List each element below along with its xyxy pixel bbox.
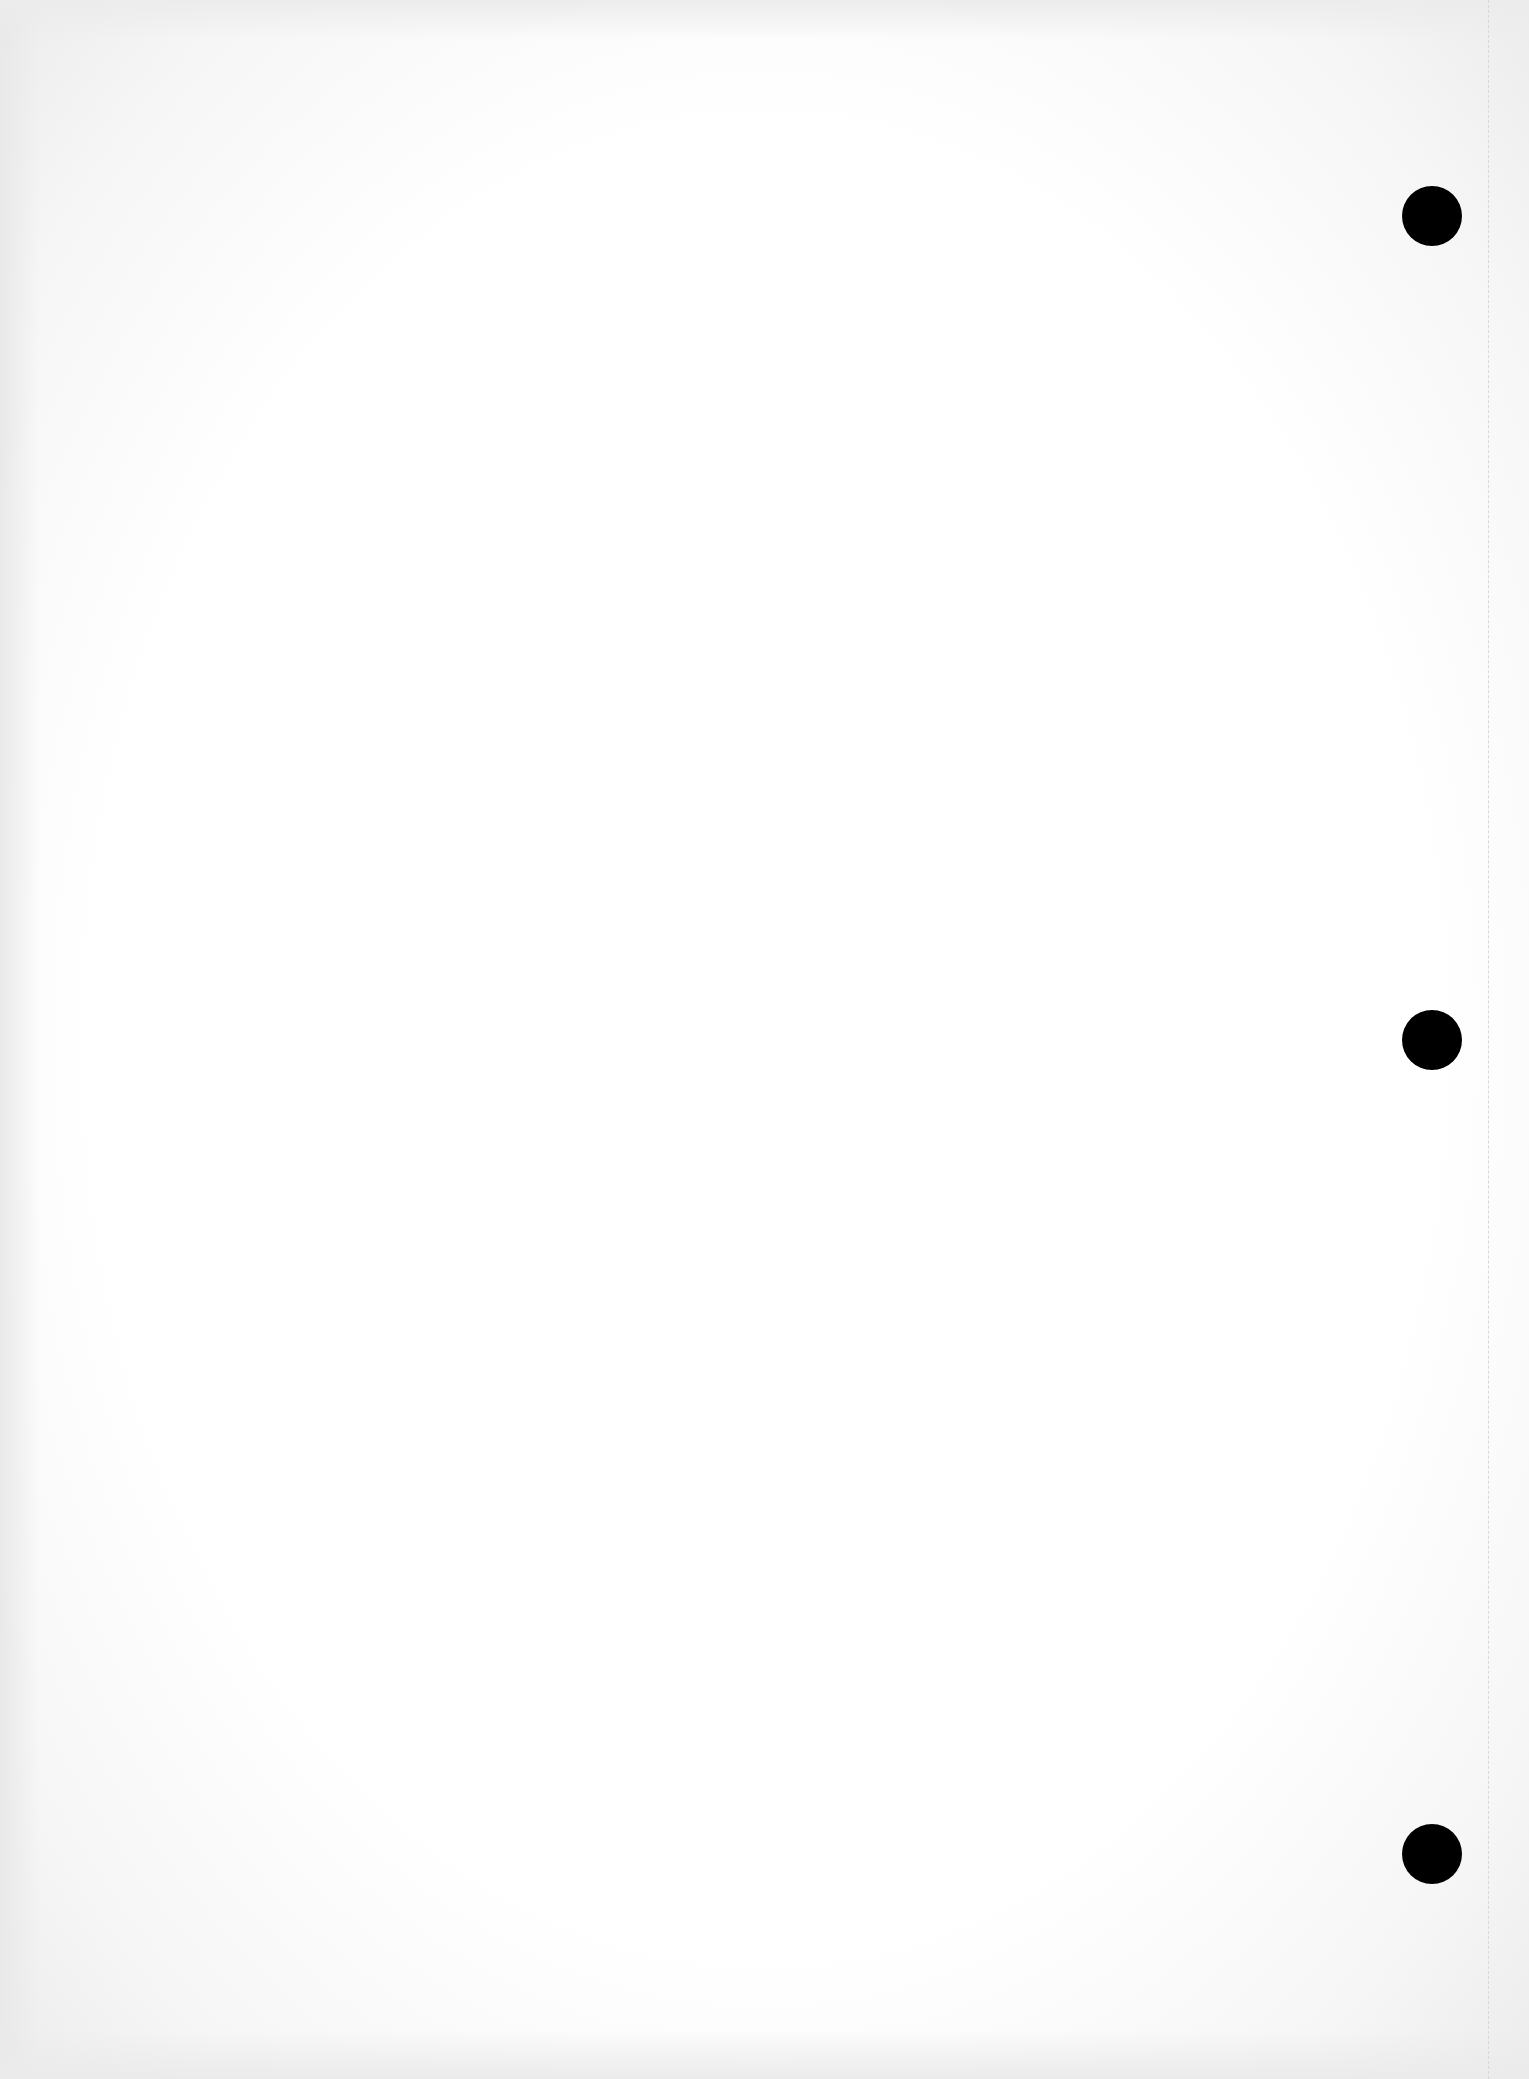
punch-hole-bottom (1402, 1824, 1462, 1884)
perforation-line (1488, 0, 1489, 2079)
punch-hole-top (1402, 186, 1462, 246)
scanned-page (0, 0, 1529, 2079)
page-edge-shadow-left (0, 0, 40, 2079)
punch-hole-middle (1402, 1010, 1462, 1070)
page-edge-shadow-bottom (0, 2029, 1529, 2079)
page-edge-shadow-top (0, 0, 1529, 40)
